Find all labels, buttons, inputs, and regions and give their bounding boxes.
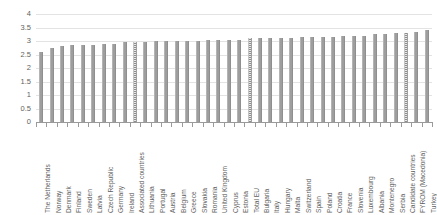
x-axis-category-label: Lithuania [148, 186, 155, 213]
bar [102, 44, 106, 122]
x-axis-category-label: Cyprus [232, 192, 239, 213]
x-axis-category-label: The Netherlands [44, 164, 51, 213]
bar [414, 32, 418, 122]
x-axis-tick [432, 122, 433, 127]
y-axis-tick-label: 3 [27, 37, 31, 45]
x-axis-category-label: Germany [117, 186, 124, 213]
x-axis-category-label: Czech Republic [107, 167, 114, 213]
bar [60, 46, 64, 122]
x-axis-category-label: Luxembourg [367, 176, 374, 213]
x-axis-category-label: Portugal [159, 188, 166, 213]
bar [394, 33, 398, 122]
bar [268, 38, 272, 122]
bar [81, 45, 85, 122]
x-axis-category-label: Montenegro [388, 178, 395, 213]
bar [321, 37, 325, 122]
x-axis-category-label: Spain [315, 196, 322, 213]
bar [112, 44, 116, 122]
bar [404, 33, 408, 122]
bar [216, 40, 220, 122]
x-axis-category-label: Turkey [430, 193, 437, 213]
x-axis-category-label: Sweden [86, 189, 93, 213]
x-axis-category-label: Latvia [96, 195, 103, 213]
x-axis-category-label: Ireland [128, 193, 135, 213]
x-axis-category-label: Italy [273, 201, 280, 213]
y-axis-tick-label: 1.5 [21, 78, 31, 86]
y-axis-tick-label: 2.5 [21, 51, 31, 59]
bar [425, 30, 429, 122]
plot-area [36, 14, 432, 122]
bars-container [36, 14, 432, 122]
bar [123, 42, 127, 122]
x-axis-category-label: Albania [378, 191, 385, 213]
x-axis-category-label: Malta [294, 197, 301, 213]
x-axis-category-label: Bulgaria [263, 189, 270, 213]
bar [133, 42, 137, 122]
x-axis-category-label: Slovakia [201, 188, 208, 213]
bar [164, 41, 168, 122]
bar [206, 40, 210, 122]
bar [289, 38, 293, 122]
bar [237, 40, 241, 122]
bar [248, 38, 252, 122]
bar [39, 52, 43, 122]
bar [258, 38, 262, 122]
x-axis-category-label: United Kingdom [221, 166, 228, 213]
bar-chart: 43.532.521.510.50 The NetherlandsNorwayD… [0, 0, 437, 215]
x-axis-category-label: Hungary [284, 188, 291, 213]
bar [310, 37, 314, 122]
y-axis-tick-label: 0.5 [21, 105, 31, 113]
bar [175, 41, 179, 122]
x-axis-category-label: Croatia [336, 192, 343, 213]
bar [227, 40, 231, 122]
x-axis-category-label: Romania [211, 187, 218, 213]
bar [352, 36, 356, 122]
y-axis-tick-label: 3.5 [21, 24, 31, 32]
bar [70, 45, 74, 122]
x-axis-category-label: Poland [326, 192, 333, 213]
bar [154, 41, 158, 122]
x-axis-category-label: Norway [55, 191, 62, 213]
y-axis-tick-label: 2 [27, 64, 31, 72]
x-axis-category-label: Finland [75, 191, 82, 213]
x-axis-category-label: Switzerland [305, 179, 312, 213]
x-axis-category-label: Denmark [65, 186, 72, 213]
x-axis-labels: The NetherlandsNorwayDenmarkFinlandSwede… [36, 127, 432, 215]
bar [331, 37, 335, 122]
bar [196, 41, 200, 122]
bar [185, 41, 189, 122]
bar [383, 34, 387, 122]
bar [50, 48, 54, 122]
bar [91, 45, 95, 122]
y-axis-labels: 43.532.521.510.50 [0, 0, 34, 215]
bar [300, 37, 304, 122]
x-axis-category-label: Slovenia [357, 188, 364, 213]
x-axis-category-label: Total EU [253, 188, 260, 213]
bar [143, 42, 147, 122]
bar [341, 36, 345, 122]
bar [362, 36, 366, 122]
x-axis-category-label: FYROM (Macedonia) [419, 151, 426, 213]
y-axis-tick-label: 4 [27, 10, 31, 18]
x-axis-category-label: Associated countries [138, 152, 145, 213]
y-axis-tick-label: 1 [27, 91, 31, 99]
x-axis-category-label: Austria [169, 192, 176, 213]
y-axis-tick-label: 0 [27, 118, 31, 126]
x-axis-category-label: Candidate countries [409, 154, 416, 213]
x-axis-category-label: France [346, 192, 353, 213]
x-axis-category-label: Estonia [242, 191, 249, 213]
x-axis-category-label: Belgium [180, 189, 187, 213]
x-axis-category-label: Serbia [399, 194, 406, 213]
bar [279, 38, 283, 122]
bar [373, 34, 377, 122]
x-axis-category-label: Greece [190, 191, 197, 213]
